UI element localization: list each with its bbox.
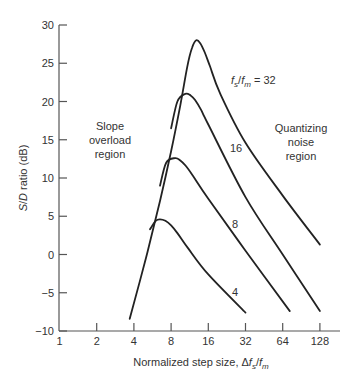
x-tick-label: 64 bbox=[277, 335, 289, 347]
slope-label-line2: overload bbox=[89, 134, 131, 146]
y-ticks: 302520151050−5−10 bbox=[35, 19, 67, 337]
curves bbox=[130, 40, 320, 319]
y-axis-label: S/D ratio (dB) bbox=[17, 145, 29, 212]
y-tick-label: 0 bbox=[48, 249, 54, 261]
x-tick-label: 128 bbox=[311, 335, 329, 347]
curve-label-8: 8 bbox=[232, 218, 238, 230]
x-tick-label: 32 bbox=[239, 335, 251, 347]
x-tick-label: 16 bbox=[202, 335, 214, 347]
axes bbox=[59, 25, 340, 331]
slope-label-line3: region bbox=[95, 148, 126, 160]
quant-label-line3: region bbox=[286, 150, 317, 162]
sd-ratio-chart: 302520151050−5−10 1248163264128 S/D rati… bbox=[0, 0, 357, 385]
quant-label-line2: noise bbox=[288, 136, 314, 148]
curve-4 bbox=[150, 219, 246, 312]
x-tick-label: 1 bbox=[56, 335, 62, 347]
curve-32 bbox=[130, 40, 320, 319]
y-tick-label: −5 bbox=[41, 287, 54, 299]
x-ticks: 1248163264128 bbox=[56, 323, 329, 347]
y-tick-label: 15 bbox=[42, 134, 54, 146]
x-tick-label: 2 bbox=[94, 335, 100, 347]
curve-label-16: 16 bbox=[230, 142, 242, 154]
y-tick-label: 10 bbox=[42, 172, 54, 184]
y-tick-label: 25 bbox=[42, 57, 54, 69]
y-tick-label: 5 bbox=[48, 210, 54, 222]
slope-overload-annotation: Slope overload region bbox=[89, 120, 131, 160]
x-tick-label: 4 bbox=[131, 335, 137, 347]
y-tick-label: −10 bbox=[35, 325, 54, 337]
curve-label-32: fs/fm = 32 bbox=[231, 74, 276, 89]
y-tick-label: 30 bbox=[42, 19, 54, 31]
quant-label-line1: Quantizing bbox=[275, 122, 328, 134]
x-tick-label: 8 bbox=[168, 335, 174, 347]
y-tick-label: 20 bbox=[42, 96, 54, 108]
slope-label-line1: Slope bbox=[96, 120, 124, 132]
curve-label-4: 4 bbox=[232, 286, 238, 298]
x-axis-label: Normalized step size, Δfs/fm bbox=[133, 356, 269, 371]
quantizing-noise-annotation: Quantizing noise region bbox=[275, 122, 328, 162]
